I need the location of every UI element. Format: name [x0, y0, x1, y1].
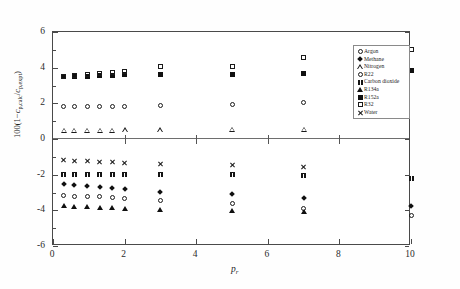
legend-item-nitrogen[interactable]: Nitrogen: [356, 63, 407, 71]
legend-marker-glyph: [358, 49, 363, 54]
legend-marker-glyph: [357, 110, 363, 116]
x-tick-mark: [268, 135, 269, 144]
y-axis-title: 100(1−cp,calc/cp,expt): [12, 71, 23, 138]
legend-item-label: Argon: [364, 48, 378, 56]
data-point-nitrogen: [97, 128, 103, 133]
data-point-carbon-dioxide: [158, 172, 163, 177]
legend-item-label: R22: [364, 71, 373, 79]
x-tick-mark-bottom: [268, 239, 269, 244]
data-point-carbon-dioxide: [409, 176, 414, 181]
legend-marker-glyph: [358, 102, 363, 107]
data-point-nitrogen: [229, 127, 235, 132]
data-point-r134a: [61, 203, 67, 208]
y-tick-mark-right: [405, 210, 409, 211]
zero-reference-line: [53, 138, 409, 139]
data-point-carbon-dioxide: [110, 172, 115, 177]
data-point-r134a: [84, 204, 90, 209]
data-point-argon: [97, 194, 102, 199]
y-axis-title-minus: −: [12, 113, 22, 118]
data-point-methane: [61, 182, 67, 188]
legend-item-methane[interactable]: Methane: [356, 56, 407, 64]
data-point-r22: [85, 104, 90, 109]
x-tick-label: 2: [121, 249, 126, 259]
legend-item-label: Nitrogen: [364, 63, 384, 71]
data-point-r32: [97, 71, 102, 76]
x-tick-mark-bottom: [339, 239, 340, 244]
x-tick-label: 6: [264, 249, 269, 259]
legend-item-label: R152a: [364, 94, 379, 102]
data-point-argon: [85, 194, 90, 199]
y-tick-mark: [53, 32, 58, 33]
y-tick-mark: [53, 175, 58, 176]
legend-marker-icon: [356, 78, 364, 86]
data-point-carbon-dioxide: [122, 172, 127, 177]
legend-item-carbon-dioxide[interactable]: Carbon dioxide: [356, 78, 407, 86]
data-point-carbon-dioxide: [85, 172, 90, 177]
data-point-carbon-dioxide: [61, 172, 66, 177]
y-axis-title-slash: /: [12, 93, 22, 95]
legend-item-r152a[interactable]: R152a: [356, 94, 407, 102]
legend-item-r134a[interactable]: R134a: [356, 86, 407, 94]
y-tick-label: -2: [37, 169, 45, 179]
data-point-water: [301, 164, 307, 170]
data-point-argon: [110, 195, 115, 200]
data-point-methane: [97, 184, 103, 190]
data-point-argon: [158, 198, 163, 203]
data-point-methane: [229, 191, 235, 197]
x-tick-mark-bottom: [53, 239, 54, 244]
y-tick-mark-minor: [53, 157, 56, 158]
x-tick-label: 0: [50, 249, 55, 259]
legend-marker-icon: [356, 63, 364, 71]
x-tick-mark-bottom: [411, 239, 412, 244]
x-tick-mark: [125, 135, 126, 144]
legend-marker-icon: [356, 94, 364, 102]
legend-item-label: R134a: [364, 86, 379, 94]
x-tick-mark-bottom: [125, 239, 126, 244]
data-point-argon: [409, 213, 414, 218]
data-point-methane: [122, 186, 128, 192]
y-tick-label: 6: [40, 26, 45, 36]
data-point-water: [71, 158, 77, 164]
y-tick-mark-minor: [53, 193, 56, 194]
y-axis-title-sub1: p,calc: [17, 95, 23, 109]
legend-marker-icon: [356, 71, 364, 79]
legend-marker-icon: [356, 101, 364, 109]
data-point-water: [61, 157, 67, 163]
data-point-water: [122, 160, 128, 166]
figure-scatter-plot: 100(1−cp,calc/cp,expt) pr 6420-2-4-6 024…: [0, 0, 460, 289]
data-point-water: [109, 159, 115, 165]
legend-item-r22[interactable]: R22: [356, 71, 407, 79]
legend-marker-glyph: [358, 72, 363, 77]
data-point-nitrogen: [157, 127, 163, 132]
data-point-r22: [97, 104, 102, 109]
data-point-methane: [72, 182, 78, 188]
legend-item-label: Water: [364, 109, 377, 117]
y-tick-mark: [53, 68, 58, 69]
data-point-water: [84, 158, 90, 164]
data-point-r134a: [301, 209, 307, 214]
y-tick-label: -4: [37, 204, 45, 214]
data-point-argon: [72, 194, 77, 199]
legend-marker-glyph: [357, 57, 363, 63]
data-point-r134a: [122, 206, 128, 211]
x-axis-title: pr: [231, 264, 238, 275]
legend-item-argon[interactable]: Argon: [356, 48, 407, 56]
y-axis-title-lead: 100(1: [12, 118, 22, 138]
y-tick-label: 0: [40, 133, 45, 143]
legend-marker-icon: [356, 109, 364, 117]
data-point-nitrogen: [61, 128, 67, 133]
legend-marker-glyph: [358, 80, 363, 85]
legend-item-r32[interactable]: R32: [356, 101, 407, 109]
x-tick-label: 10: [405, 249, 415, 259]
data-point-r22: [122, 104, 127, 109]
y-tick-label: -6: [37, 240, 45, 250]
legend-item-label: R32: [364, 101, 373, 109]
y-axis-title-sub2: p,expt: [17, 74, 23, 89]
data-point-r22: [72, 104, 77, 109]
data-point-water: [229, 162, 235, 168]
legend-item-water[interactable]: Water: [356, 109, 407, 117]
data-point-r152a: [301, 71, 306, 76]
y-tick-mark: [53, 139, 58, 140]
data-point-carbon-dioxide: [230, 172, 235, 177]
data-point-methane: [84, 183, 90, 189]
